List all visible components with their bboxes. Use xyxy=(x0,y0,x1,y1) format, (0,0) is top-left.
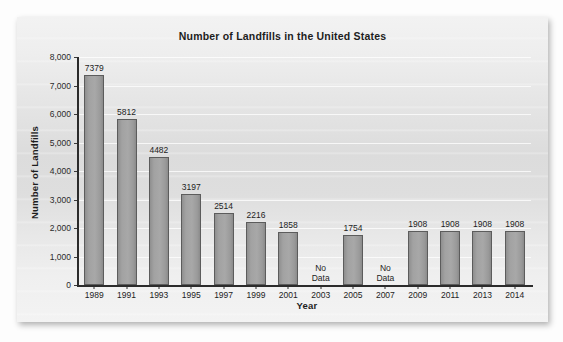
bar-value-label: 4482 xyxy=(149,145,168,155)
bar-value-label: 1858 xyxy=(279,220,298,230)
x-axis-line xyxy=(77,285,533,287)
bar-value-label: 1908 xyxy=(408,219,427,229)
x-axis-title: Year xyxy=(77,300,537,311)
x-axis-tick-label: 1999 xyxy=(246,290,265,300)
bar[interactable] xyxy=(278,232,298,285)
bar-column[interactable]: 44821993 xyxy=(143,57,175,285)
x-axis-tick-label: 1993 xyxy=(149,290,168,300)
bar-column[interactable]: 17542005 xyxy=(337,57,369,285)
bar[interactable] xyxy=(505,231,525,285)
bar-column[interactable]: NoData2003 xyxy=(305,57,337,285)
y-axis-line xyxy=(77,57,79,286)
bar-column[interactable]: 25141997 xyxy=(207,57,239,285)
x-axis-tick-label: 2011 xyxy=(441,290,459,300)
y-axis-tick-label: 6,000 xyxy=(50,109,71,119)
chart-title: Number of Landfills in the United States xyxy=(17,30,548,42)
bar-value-label: 5812 xyxy=(117,107,136,117)
no-data-label: NoData xyxy=(312,263,330,283)
y-axis-tick-label: 7,000 xyxy=(50,81,71,91)
bar-column[interactable]: 73791989 xyxy=(78,57,110,285)
bar[interactable] xyxy=(214,213,234,285)
x-axis-tick-label: 2014 xyxy=(505,290,524,300)
bar-column[interactable]: 18582001 xyxy=(272,57,304,285)
x-axis-tick-label: 1995 xyxy=(182,290,201,300)
bar-column[interactable]: 19082013 xyxy=(466,57,498,285)
no-data-label-line: No xyxy=(312,263,330,273)
x-axis-tick-label: 2013 xyxy=(473,290,492,300)
x-axis-tick-label: 2009 xyxy=(408,290,427,300)
bar-column[interactable]: 19082011 xyxy=(434,57,466,285)
bar[interactable] xyxy=(440,231,460,285)
no-data-label-line: Data xyxy=(312,273,330,283)
y-axis-tick-label: 4,000 xyxy=(50,166,71,176)
y-axis-tick-label: 2,000 xyxy=(50,223,71,233)
bar[interactable] xyxy=(408,231,428,285)
bar-column[interactable]: 19082009 xyxy=(402,57,434,285)
bar-value-label: 7379 xyxy=(85,63,104,73)
y-axis-tick-label: 0 xyxy=(66,280,71,290)
bar-value-label: 3197 xyxy=(182,182,201,192)
bar[interactable] xyxy=(84,75,104,285)
bar[interactable] xyxy=(343,235,363,285)
bar-value-label: 1754 xyxy=(344,223,363,233)
no-data-label-line: No xyxy=(376,263,394,273)
bar-column[interactable]: 58121991 xyxy=(110,57,142,285)
x-axis-tick-label: 2003 xyxy=(311,290,330,300)
y-axis-tick-label: 8,000 xyxy=(50,52,71,62)
x-axis-tick-label: 1989 xyxy=(85,290,104,300)
chart-panel: Number of Landfills in the United States… xyxy=(17,17,548,322)
no-data-label: NoData xyxy=(376,263,394,283)
bar-value-label: 2216 xyxy=(246,210,265,220)
x-axis-tick-label: 2005 xyxy=(344,290,363,300)
bar[interactable] xyxy=(149,157,169,285)
y-axis-tick-label: 3,000 xyxy=(50,195,71,205)
bar[interactable] xyxy=(472,231,492,285)
x-axis-tick-label: 1991 xyxy=(117,290,136,300)
no-data-label-line: Data xyxy=(376,273,394,283)
bar-column[interactable]: 19082014 xyxy=(499,57,531,285)
bar[interactable] xyxy=(246,222,266,285)
bar-value-label: 1908 xyxy=(441,219,460,229)
plot-area: 8,0007,0006,0005,0004,0003,0002,0001,000… xyxy=(78,57,531,285)
y-axis-tick-label: 1,000 xyxy=(50,252,71,262)
bar-value-label: 1908 xyxy=(505,219,524,229)
x-axis-tick-label: 2007 xyxy=(376,290,395,300)
bar[interactable] xyxy=(117,119,137,285)
y-axis-title: Number of Landfills xyxy=(29,98,40,248)
bar[interactable] xyxy=(181,194,201,285)
bar-column[interactable]: 31971995 xyxy=(175,57,207,285)
screenshot-root: Number of Landfills in the United States… xyxy=(0,0,563,342)
x-axis-tick-label: 2001 xyxy=(279,290,298,300)
y-axis-tick-label: 5,000 xyxy=(50,138,71,148)
bar-column[interactable]: 22161999 xyxy=(240,57,272,285)
x-axis-tick-label: 1997 xyxy=(214,290,233,300)
bar-value-label: 1908 xyxy=(473,219,492,229)
bar-column[interactable]: NoData2007 xyxy=(369,57,401,285)
bar-value-label: 2514 xyxy=(214,201,233,211)
